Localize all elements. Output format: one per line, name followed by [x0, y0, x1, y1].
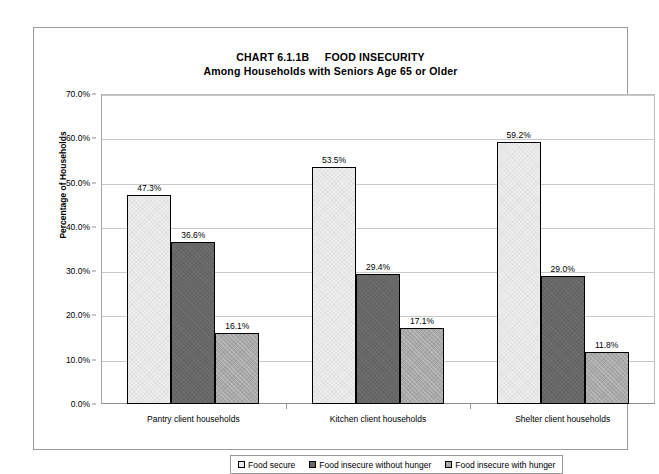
y-tick-mark [92, 94, 96, 95]
y-tick-mark [92, 271, 96, 272]
chart-subtitle: Among Households with Seniors Age 65 or … [34, 64, 627, 78]
bar: 59.2% [497, 142, 541, 404]
legend-swatch-icon [238, 461, 245, 468]
legend-item[interactable]: Food insecure with hunger [445, 460, 555, 470]
legend-item[interactable]: Food insecure without hunger [309, 460, 431, 470]
y-tick-label: 0.0% [71, 399, 90, 409]
y-tick-mark [92, 138, 96, 139]
y-axis-title: Percentage of Households [58, 110, 68, 260]
bar-value-label: 29.4% [366, 262, 390, 272]
legend-item[interactable]: Food secure [238, 460, 295, 470]
bar-value-label: 16.1% [225, 321, 249, 331]
y-tick-label: 30.0% [66, 266, 90, 276]
y-tick-label: 70.0% [66, 89, 90, 99]
bar-value-label: 47.3% [137, 183, 161, 193]
x-axis: Pantry client householdsKitchen client h… [101, 404, 655, 432]
legend-swatch-icon [309, 461, 316, 468]
bar: 16.1% [215, 333, 259, 404]
bar-value-label: 36.6% [181, 230, 205, 240]
bar: 47.3% [127, 195, 171, 404]
bar: 29.0% [541, 276, 585, 404]
y-tick-mark [92, 315, 96, 316]
bar: 53.5% [312, 167, 356, 404]
y-tick-label: 10.0% [66, 355, 90, 365]
legend-label: Food insecure with hunger [455, 460, 555, 470]
x-axis-divider [286, 404, 287, 409]
y-tick-label: 50.0% [66, 178, 90, 188]
bar-value-label: 17.1% [410, 316, 434, 326]
y-tick-mark [92, 226, 96, 227]
bar-value-label: 53.5% [322, 155, 346, 165]
y-tick-label: 20.0% [66, 310, 90, 320]
legend-label: Food secure [248, 460, 295, 470]
y-tick-label: 40.0% [66, 222, 90, 232]
chart-title-block: CHART 6.1.1B FOOD INSECURITY Among House… [34, 50, 627, 78]
x-axis-group-label: Shelter client households [515, 414, 610, 424]
y-tick-label: 60.0% [66, 133, 90, 143]
bar: 11.8% [585, 352, 629, 404]
bar-value-label: 11.8% [595, 340, 618, 350]
y-tick-mark [92, 359, 96, 360]
x-axis-group-label: Kitchen client households [330, 414, 426, 424]
legend-label: Food insecure without hunger [319, 460, 431, 470]
chart-legend: Food secureFood insecure without hungerF… [230, 455, 563, 474]
legend-swatch-icon [445, 461, 452, 468]
bar-value-label: 29.0% [551, 264, 575, 274]
bar: 29.4% [356, 274, 400, 404]
y-tick-mark [92, 182, 96, 183]
x-axis-divider [470, 404, 471, 409]
chart-title: CHART 6.1.1B FOOD INSECURITY [34, 50, 627, 64]
chart-frame: CHART 6.1.1B FOOD INSECURITY Among House… [33, 27, 628, 450]
y-tick-mark [92, 404, 96, 405]
bar: 36.6% [171, 242, 215, 404]
bar-value-label: 59.2% [507, 130, 531, 140]
x-axis-group-label: Pantry client households [147, 414, 240, 424]
bars-layer: 47.3%36.6%16.1%53.5%29.4%17.1%59.2%29.0%… [101, 94, 655, 404]
bar: 17.1% [400, 328, 444, 404]
